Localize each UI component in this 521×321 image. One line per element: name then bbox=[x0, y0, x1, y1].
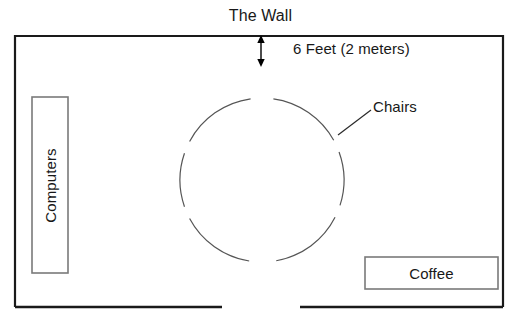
chair-arc-top-right bbox=[273, 99, 333, 140]
diagram-canvas: The Wall 6 Feet (2 meters) Chairs Comput… bbox=[0, 0, 521, 321]
computers-box-label: Computers bbox=[32, 97, 68, 273]
chair-arc-right bbox=[339, 152, 344, 205]
chairs-leader-line bbox=[338, 110, 371, 135]
distance-arrow bbox=[257, 35, 264, 67]
coffee-box-label: Coffee bbox=[365, 257, 498, 289]
chair-arc-top-left bbox=[190, 99, 251, 142]
chair-arc-left bbox=[180, 153, 184, 206]
chair-arc-bottom-left bbox=[190, 219, 250, 261]
arrow-head-down bbox=[257, 59, 264, 67]
wall-title-label: The Wall bbox=[0, 8, 521, 24]
chair-circle-arcs bbox=[180, 99, 344, 261]
distance-label: 6 Feet (2 meters) bbox=[293, 41, 410, 56]
computers-label-text: Computers bbox=[43, 148, 58, 222]
chair-arc-bottom-right bbox=[276, 217, 335, 261]
chairs-label: Chairs bbox=[373, 99, 417, 114]
